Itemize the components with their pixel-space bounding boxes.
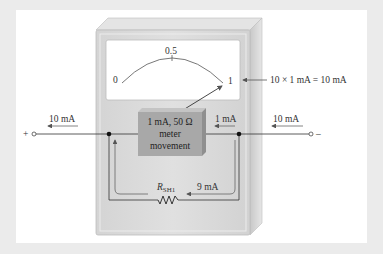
- full-scale-annotation: 10 × 1 mA = 10 mA: [270, 75, 347, 85]
- movement-label-meter: meter: [159, 129, 181, 139]
- negative-sign: –: [315, 129, 321, 139]
- right-current-label: 10 mA: [273, 114, 299, 124]
- scale-label-0: 0: [113, 75, 118, 85]
- junction-left: [107, 132, 112, 137]
- shunt-current-label: 9 mA: [197, 182, 219, 192]
- movement-rating: 1 mA, 50 Ω: [147, 117, 192, 127]
- meter-movement-box: 1 mA, 50 Ω meter movement: [138, 108, 206, 156]
- meter-face: 0 0.5 1: [106, 40, 240, 100]
- ammeter-diagram: 0 0.5 1 10 × 1 mA = 10 mA 1 mA, 50 Ω met…: [0, 0, 383, 254]
- positive-terminal: [32, 132, 36, 136]
- junction-right: [237, 132, 242, 137]
- scale-label-1: 1: [228, 76, 233, 86]
- scale-label-0.5: 0.5: [165, 46, 177, 56]
- negative-terminal: [309, 132, 313, 136]
- meter-current-label: 1 mA: [215, 114, 237, 124]
- positive-sign: +: [23, 129, 28, 139]
- left-current-label: 10 mA: [49, 114, 75, 124]
- movement-label-movement: movement: [150, 141, 190, 151]
